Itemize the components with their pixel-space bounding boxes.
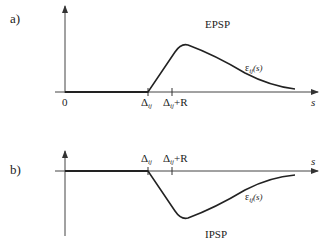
panel-a-label: a) [10,11,20,26]
panel-b-label: b) [10,162,21,177]
ipsp-title: IPSP [205,228,227,240]
delta-r-label-b: Δij+R [163,152,188,166]
delta-label-a: Δij [141,96,152,110]
psp-diagram: a) 0 Δij Δij+R EPSP εij(s) s b) Δij Δij+… [0,0,331,252]
origin-label: 0 [62,96,68,108]
s-axis-label-a: s [311,96,315,108]
panel-a: a) 0 Δij Δij+R EPSP εij(s) s [10,6,318,110]
s-axis-label-b: s [311,155,315,167]
function-label-b: εij(s) [245,191,263,204]
delta-r-label-a: Δij+R [163,96,188,110]
delta-label-b: Δij [141,152,152,166]
panel-b: b) Δij Δij+R IPSP εij(s) s [10,151,318,240]
function-label-a: εij(s) [245,62,263,75]
epsp-title: EPSP [205,18,230,30]
